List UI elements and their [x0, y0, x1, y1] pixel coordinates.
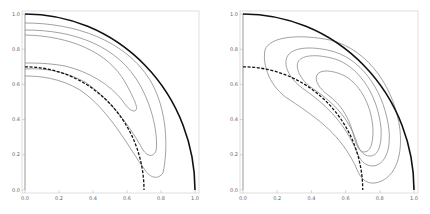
left-x-tick-0: 0.0: [21, 195, 29, 201]
left-dashed-arc: [25, 67, 144, 190]
right-contour-2: [286, 48, 389, 166]
right-y-tick-4: 0.8: [230, 46, 238, 52]
right-y-tick-1: 0.2: [230, 151, 238, 157]
right-y-tick-2: 0.4: [230, 116, 238, 122]
left-contour-1: [25, 23, 166, 177]
right-y-axis: 0.0 0.2 0.4 0.6 0.8 1.0: [230, 11, 243, 193]
right-y-tick-0: 0.0: [230, 187, 238, 193]
left-y-axis: 0.0 0.2 0.4 0.6 0.8 1.0: [12, 11, 25, 193]
right-x-tick-5: 1.0: [410, 195, 418, 201]
right-dashed-arc: [243, 67, 363, 190]
right-x-tick-0: 0.0: [239, 195, 247, 201]
left-x-tick-2: 0.4: [89, 195, 97, 201]
left-contour-3: [25, 35, 137, 111]
right-contour-4: [316, 71, 373, 152]
left-y-tick-4: 0.8: [12, 46, 20, 52]
left-y-tick-5: 1.0: [12, 11, 20, 17]
right-x-tick-1: 0.2: [273, 195, 281, 201]
left-x-tick-1: 0.2: [55, 195, 63, 201]
figure: 0.0 0.2 0.4 0.6 0.8 1.0 0.0 0.2 0.4 0.6 …: [0, 0, 430, 214]
right-plot: 0.0 0.2 0.4 0.6 0.8 1.0 0.0 0.2 0.4 0.6 …: [230, 11, 418, 202]
right-x-tick-4: 0.8: [376, 195, 384, 201]
right-x-axis: 0.0 0.2 0.4 0.6 0.8 1.0: [239, 190, 418, 201]
right-y-tick-3: 0.6: [230, 81, 238, 87]
left-x-tick-5: 1.0: [191, 195, 199, 201]
left-contour-2: [25, 30, 157, 155]
left-x-axis: 0.0 0.2 0.4 0.6 0.8 1.0: [21, 190, 199, 201]
left-plot: 0.0 0.2 0.4 0.6 0.8 1.0 0.0 0.2 0.4 0.6 …: [12, 11, 199, 202]
left-y-tick-0: 0.0: [12, 187, 20, 193]
right-y-tick-5: 1.0: [230, 11, 238, 17]
left-y-tick-3: 0.6: [12, 81, 20, 87]
left-y-tick-1: 0.2: [12, 151, 20, 157]
right-contour-1: [264, 37, 400, 183]
right-x-tick-2: 0.4: [307, 195, 315, 201]
left-unit-arc: [25, 14, 195, 190]
left-x-tick-3: 0.6: [123, 195, 131, 201]
right-unit-arc: [243, 14, 414, 190]
left-y-tick-2: 0.4: [12, 116, 20, 122]
right-x-tick-3: 0.6: [342, 195, 350, 201]
left-x-tick-4: 0.8: [157, 195, 165, 201]
